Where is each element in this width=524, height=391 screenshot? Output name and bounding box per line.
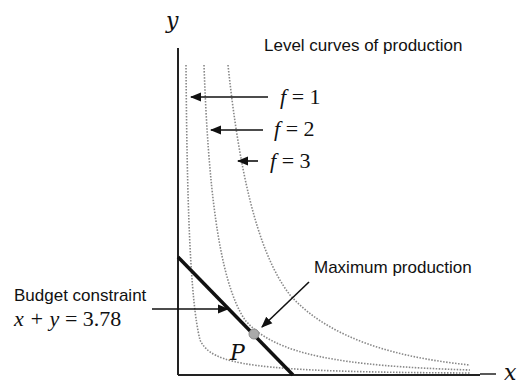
budget-constraint-equation: x + y = 3.78 [14,306,121,332]
diagram-canvas [0,0,524,391]
level-label-f3: f = 3 [270,148,311,174]
level-label-f2: f = 2 [274,116,315,142]
x-axis-label: x [504,360,516,385]
budget-constraint-label: Budget constraint [14,286,146,306]
y-axis-label: y [166,8,178,33]
maximum-production-label: Maximum production [314,258,472,278]
point-p-label: P [230,340,245,365]
level-curve-f3 [228,65,470,365]
maximum-production-point [249,329,259,339]
level-label-f1: f = 1 [280,84,321,110]
level-curve-f1 [186,65,470,373]
diagram-title: Level curves of production [264,36,462,56]
arrow-maximum [262,282,309,327]
